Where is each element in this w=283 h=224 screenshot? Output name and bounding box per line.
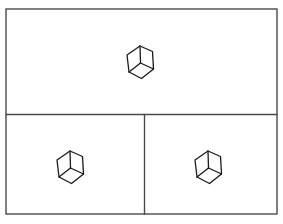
cube-inner-edge-1 (70, 151, 71, 168)
cube-inner-edge-1 (140, 46, 141, 63)
outer-frame (6, 9, 277, 214)
three-panel-cube-diagram (0, 0, 283, 224)
cube-inner-edge-1 (208, 151, 209, 168)
diagram-canvas (0, 0, 283, 224)
